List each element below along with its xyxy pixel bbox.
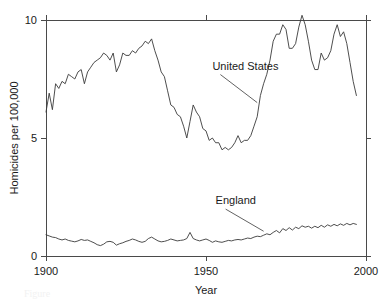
plot-frame (46, 20, 366, 256)
united-states-series-label: United States (212, 60, 279, 72)
y-tick-label: 0 (31, 250, 37, 262)
england-leader-line (226, 209, 264, 231)
x-tick-label: 2000 (354, 265, 378, 277)
series-line-united-states (46, 15, 356, 150)
x-tick-label: 1950 (194, 265, 218, 277)
y-tick-label: 10 (25, 14, 37, 26)
chart-figure: 0510 190019502000 Homicides per 100,000 … (0, 0, 386, 304)
y-axis-title: Homicides per 100,000 (8, 81, 20, 194)
line-chart-canvas: 0510 190019502000 Homicides per 100,000 … (0, 0, 386, 304)
y-axis-ticks (41, 20, 371, 256)
x-tick-label: 1900 (34, 265, 58, 277)
united-states-leader-line (220, 75, 257, 103)
x-axis-title: Year (195, 284, 218, 296)
england-series-label: England (216, 194, 256, 206)
series-line-england (46, 223, 356, 245)
y-axis-tick-labels: 0510 (25, 14, 37, 262)
x-axis-ticks (46, 15, 366, 261)
y-tick-label: 5 (31, 132, 37, 144)
x-axis-tick-labels: 190019502000 (34, 265, 378, 277)
figure-caption-partial: Figure (24, 288, 50, 299)
plot-frame-border (46, 20, 366, 256)
